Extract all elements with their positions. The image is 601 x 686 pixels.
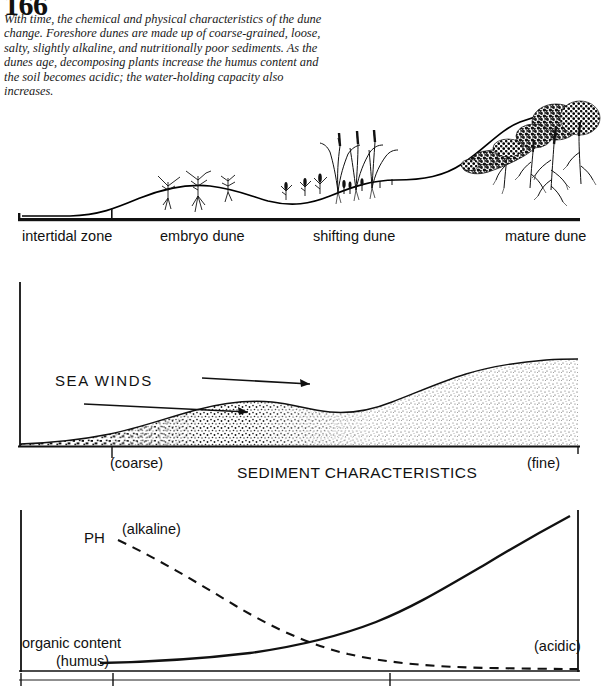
marram-grass — [320, 130, 398, 204]
zone-label-shifting: shifting dune — [313, 228, 395, 244]
ph-label: PH — [84, 529, 105, 546]
dune-profile-panel: intertidal zone embryo dune shifting dun… — [0, 100, 601, 228]
coarse-label: (coarse) — [110, 455, 163, 471]
alkaline-label: (alkaline) — [122, 521, 181, 537]
fine-label: (fine) — [527, 455, 560, 471]
zone-label-embryo: embryo dune — [160, 228, 245, 244]
ph-curve — [118, 540, 578, 669]
sea-winds-label: SEA WINDS — [55, 372, 153, 389]
sediment-title: SEDIMENT CHARACTERISTICS — [237, 464, 477, 482]
sediment-panel: SEA WINDS — [0, 278, 601, 463]
profile-baseline — [18, 208, 580, 221]
sediment-svg — [0, 278, 601, 463]
pioneer-plants — [158, 171, 235, 212]
intro-paragraph: With time, the chemical and physical cha… — [4, 12, 322, 98]
humus-label: (humus) — [56, 653, 109, 669]
textbook-page: 166 With time, the chemical and physical… — [0, 0, 601, 686]
sediment-body — [20, 356, 578, 448]
zone-label-mature: mature dune — [505, 228, 586, 244]
mature-dune-vegetation — [461, 101, 600, 206]
zone-label-intertidal: intertidal zone — [22, 228, 112, 244]
acidic-label: (acidic) — [534, 638, 581, 654]
organic-content-label: organic content — [22, 635, 121, 651]
organic-content-curve — [100, 516, 570, 663]
dune-profile-svg — [0, 100, 601, 228]
